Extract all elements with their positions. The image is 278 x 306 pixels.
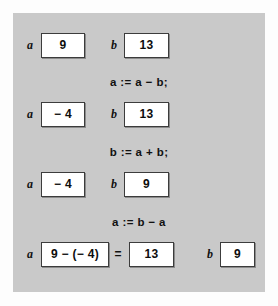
assignment-statement-2: b := a + b; <box>13 146 265 158</box>
variable-label-a: a <box>25 177 35 192</box>
value-box-b: 9 <box>124 172 169 197</box>
variable-label-b: b <box>109 107 119 122</box>
figure-container: a 9 b 13 a := a − b; a − 4 b 13 b := a +… <box>0 0 278 306</box>
variable-label-b: b <box>205 247 215 262</box>
variable-label-a: a <box>25 38 35 53</box>
value-box-a: − 4 <box>41 172 85 197</box>
trace-row-1: a 9 b 13 <box>13 30 265 60</box>
value-box-b: 13 <box>124 33 169 58</box>
diagram-panel: a 9 b 13 a := a − b; a − 4 b 13 b := a +… <box>13 13 265 292</box>
value-box-b: 13 <box>124 102 169 127</box>
trace-row-3: a − 4 b 9 <box>13 169 265 199</box>
variable-label-a: a <box>25 247 35 262</box>
variable-label-a: a <box>25 107 35 122</box>
value-box-a: 9 <box>41 33 85 58</box>
trace-row-2: a − 4 b 13 <box>13 99 265 129</box>
variable-label-b: b <box>109 38 119 53</box>
value-box-a: − 4 <box>41 102 85 127</box>
value-box-result: 13 <box>129 242 174 267</box>
equals-sign: = <box>112 247 124 261</box>
value-box-b: 9 <box>220 242 255 267</box>
assignment-statement-3: a := b − a <box>13 216 265 228</box>
assignment-statement-1: a := a − b; <box>13 76 265 88</box>
value-box-expression: 9 − (− 4) <box>41 242 109 267</box>
variable-label-b: b <box>109 177 119 192</box>
trace-row-final: a 9 − (− 4) = 13 b 9 <box>13 239 265 269</box>
